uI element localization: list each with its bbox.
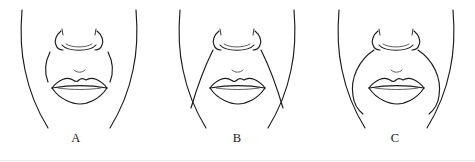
mouth-inner-line-icon (375, 88, 418, 90)
nose-base-icon (220, 45, 254, 50)
jaw-contour-right-icon (268, 10, 295, 128)
nose-base-icon (379, 45, 413, 50)
lower-lip-icon (52, 88, 107, 104)
philtrum-tick-icon (391, 70, 402, 72)
nose-base-icon (62, 45, 96, 50)
nostril-right-icon (253, 29, 254, 35)
jaw-contour-left-icon (179, 10, 206, 128)
mouth-line-icon (369, 86, 424, 88)
lower-lip-icon (369, 88, 424, 104)
nostril-left-icon (62, 29, 63, 35)
jaw-contour-right-icon (427, 10, 454, 128)
nose-ala-left-icon (372, 31, 380, 50)
nose-ala-right-icon (95, 31, 103, 50)
figure-container: A B C (0, 0, 475, 162)
mouth-inner-line-icon (216, 88, 259, 90)
mouth-inner-line-icon (58, 88, 101, 90)
jaw-contour-left-icon (338, 10, 365, 128)
panel-b (158, 0, 316, 140)
face-diagram-b (158, 0, 316, 140)
lower-lip-icon (210, 88, 265, 104)
nasolabial-fold-left-icon (191, 50, 213, 108)
nasolabial-fold-left-icon (352, 50, 374, 114)
nostril-right-icon (412, 29, 413, 35)
panel-label-b: B (217, 131, 257, 145)
nose-tip-icon (66, 44, 92, 47)
nasolabial-fold-left-icon (46, 52, 50, 82)
nasolabial-fold-right-icon (418, 50, 440, 114)
bottom-divider (0, 160, 475, 161)
nostril-left-icon (379, 29, 380, 35)
panel-a (0, 0, 158, 140)
panel-label-c: C (375, 131, 415, 145)
nostril-right-icon (95, 29, 96, 35)
nostril-left-icon (220, 29, 221, 35)
face-diagram-c (317, 0, 475, 140)
mouth-line-icon (52, 86, 107, 88)
philtrum-tick-icon (232, 70, 243, 72)
nose-ala-right-icon (412, 31, 420, 50)
mouth-line-icon (210, 86, 265, 88)
nose-ala-left-icon (55, 31, 63, 50)
panel-label-a: A (56, 131, 96, 145)
nose-tip-icon (383, 44, 409, 47)
jaw-contour-left-icon (21, 10, 48, 128)
nose-ala-left-icon (213, 31, 221, 50)
panel-c (317, 0, 475, 140)
jaw-contour-right-icon (110, 10, 137, 128)
face-diagram-a (0, 0, 158, 140)
nose-ala-right-icon (253, 31, 261, 50)
nasolabial-fold-right-icon (261, 50, 283, 108)
philtrum-tick-icon (74, 70, 85, 72)
nasolabial-fold-right-icon (108, 52, 112, 82)
nose-tip-icon (224, 44, 250, 47)
